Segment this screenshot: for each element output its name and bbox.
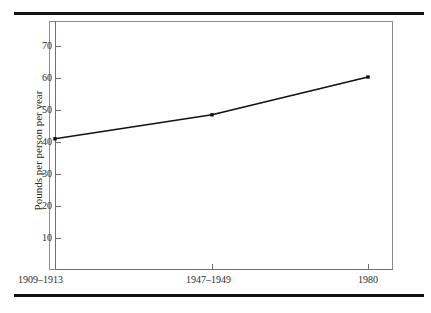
data-point-2	[210, 113, 213, 116]
series-markers	[53, 75, 369, 140]
data-point-1	[53, 137, 56, 140]
series-line	[55, 77, 368, 139]
data-point-3	[366, 75, 369, 78]
figure-container: Pounds per person per year 70 60 50 40 3…	[0, 0, 431, 313]
series-layer	[0, 0, 431, 313]
